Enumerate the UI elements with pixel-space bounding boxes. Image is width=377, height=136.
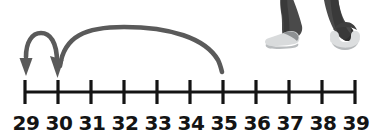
tick-labels: 29 30 31 32 33 34 35 36 37 38 39 — [13, 111, 370, 135]
tick-label-32: 32 — [112, 111, 139, 135]
tick-label-29: 29 — [13, 111, 40, 135]
tick-label-37: 37 — [277, 111, 304, 135]
tick-label-39: 39 — [343, 111, 370, 135]
tick-label-31: 31 — [79, 111, 106, 135]
tick-label-36: 36 — [244, 111, 271, 135]
tick-label-34: 34 — [178, 111, 205, 135]
tick-label-38: 38 — [310, 111, 337, 135]
number-line-diagram: 29 30 31 32 33 34 35 36 37 38 39 — [0, 0, 377, 136]
tick-label-35: 35 — [211, 111, 238, 135]
tick-label-33: 33 — [145, 111, 172, 135]
tick-label-30: 30 — [46, 111, 73, 135]
